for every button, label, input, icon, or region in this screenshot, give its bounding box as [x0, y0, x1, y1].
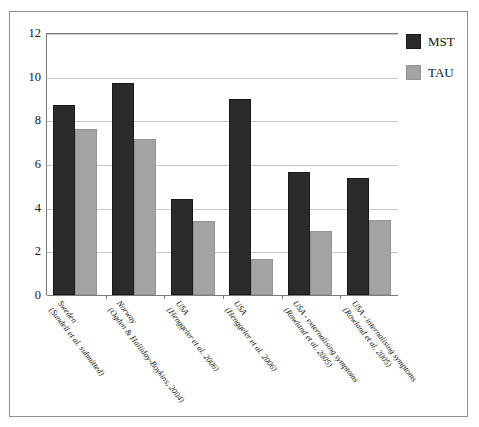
figure-frame: 024681012 Sweden(Sundell et al. submitte…	[9, 11, 468, 417]
bar-mst	[112, 83, 134, 295]
mst-swatch	[406, 34, 421, 49]
x-category-label-line1: USA - internalising symptoms	[348, 299, 418, 384]
bar-mst	[229, 99, 251, 296]
bar-tau	[251, 259, 273, 295]
bar-tau	[134, 139, 156, 295]
x-category-label: USA(Henggeler et al. 2006)	[164, 299, 229, 374]
y-tick-label: 8	[35, 114, 41, 127]
y-tick-label: 4	[35, 201, 41, 214]
chart-legend: MSTTAU	[406, 34, 476, 96]
legend-row[interactable]: MST	[406, 34, 476, 49]
bar-group	[229, 34, 273, 295]
x-category-label-line2: (Rowland et al. 2005)	[281, 305, 351, 391]
bar-tau	[369, 220, 391, 295]
legend-label: TAU	[428, 65, 454, 81]
legend-label: MST	[428, 34, 455, 50]
y-tick-label: 0	[35, 289, 41, 302]
bar-group	[53, 34, 97, 295]
y-axis-tick-labels: 024681012	[10, 33, 46, 295]
x-axis-category-labels: Sweden(Sundell et al. submitted)Norway(O…	[46, 295, 466, 415]
bar-group	[347, 34, 391, 295]
gridline	[47, 209, 398, 210]
gridline	[47, 121, 398, 122]
plot-area	[46, 33, 398, 295]
gridline	[47, 78, 398, 79]
bar-tau	[310, 231, 332, 295]
bar-group	[112, 34, 156, 295]
bar-tau	[75, 129, 97, 295]
legend-row[interactable]: TAU	[406, 65, 476, 80]
bar-group	[171, 34, 215, 295]
y-tick-label: 2	[35, 245, 41, 258]
bar-mst	[347, 178, 369, 295]
bar-mst	[53, 105, 75, 295]
gridline	[47, 252, 398, 253]
bar-mst	[288, 172, 310, 295]
bar-group	[288, 34, 332, 295]
top-caption-fragment	[0, 0, 479, 9]
tau-swatch	[406, 65, 421, 80]
x-category-label: USA(Henggeler et al. 2006)	[223, 299, 288, 374]
gridline	[47, 165, 398, 166]
bar-tau	[193, 221, 215, 295]
y-tick-label: 12	[29, 27, 42, 40]
bar-mst	[171, 199, 193, 295]
gridline	[47, 34, 398, 35]
y-tick-label: 6	[35, 158, 41, 171]
y-tick-label: 10	[29, 70, 42, 83]
